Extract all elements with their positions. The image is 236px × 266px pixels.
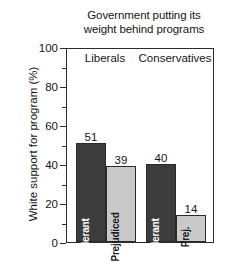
bar-value-liberals-tolerant: 51 — [73, 131, 109, 143]
plot-area: Liberals Conservatives 51 Tolerant 39 Pr… — [66, 48, 214, 243]
y-tick-label-80: 80 — [18, 81, 58, 93]
bar-caption-conservatives-prejudiced: Prej. — [180, 227, 191, 248]
bar-liberals-tolerant: Tolerant — [76, 143, 106, 243]
bar-liberals-prejudiced: Prejudiced — [106, 166, 136, 242]
bar-value-liberals-prejudiced: 39 — [103, 154, 139, 166]
y-tick-label-40: 40 — [18, 159, 58, 171]
y-tick-label-100: 100 — [18, 42, 58, 54]
bar-conservatives-tolerant: Tolerant — [146, 164, 176, 242]
y-tick-label-0: 0 — [18, 237, 58, 249]
y-tick-label-20: 20 — [18, 198, 58, 210]
y-tick-mark-0 — [60, 243, 66, 244]
y-tick-label-60: 60 — [18, 120, 58, 132]
bar-caption-conservatives-tolerant: Tolerant — [150, 218, 161, 255]
group-label-liberals: Liberals — [69, 52, 141, 64]
group-label-conservatives: Conservatives — [137, 52, 213, 64]
bar-value-conservatives-tolerant: 40 — [143, 152, 179, 164]
bar-conservatives-prejudiced: Prej. — [176, 215, 206, 242]
bar-chart-figure: Government putting its weight behind pro… — [0, 0, 236, 266]
chart-title-line-2: weight behind programs — [56, 22, 232, 36]
bar-value-conservatives-prejudiced: 14 — [173, 203, 209, 215]
y-axis-label: White support for program (%) — [27, 44, 39, 244]
chart-title-line-1: Government putting its — [56, 8, 232, 22]
bar-caption-liberals-tolerant: Tolerant — [80, 218, 91, 255]
chart-title: Government putting its weight behind pro… — [56, 8, 232, 36]
bar-caption-liberals-prejudiced: Prejudiced — [110, 212, 121, 261]
